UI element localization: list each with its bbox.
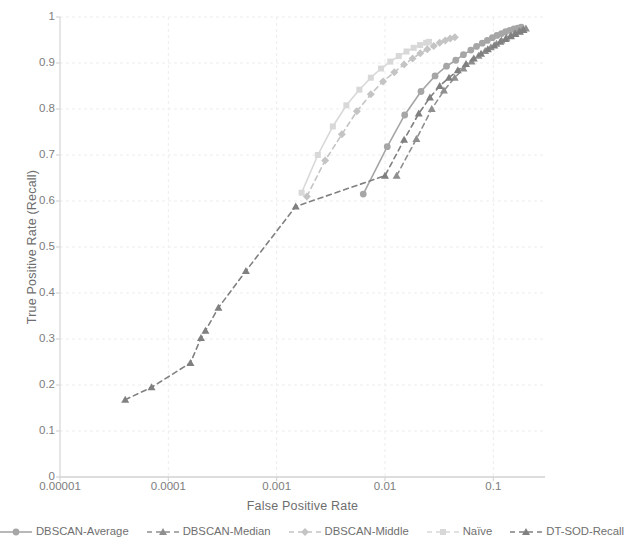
chart-legend: DBSCAN-AverageDBSCAN-MedianDBSCAN-Middle… [0, 521, 623, 543]
data-point-square [368, 75, 374, 81]
data-point-triangle [292, 203, 300, 210]
legend-item[interactable]: DBSCAN-Median [146, 526, 271, 538]
x-tick-label: 0.1 [485, 481, 501, 493]
legend-marker-square-marker [426, 526, 460, 538]
legend-marker-triangle-marker [509, 526, 543, 538]
data-point-circle [13, 529, 20, 536]
data-point-circle [460, 51, 467, 58]
data-point-square [387, 59, 393, 65]
legend-marker-triangle-marker [146, 526, 180, 538]
data-point-circle [418, 88, 425, 95]
data-point-square [426, 39, 432, 45]
x-tick-label: 0.00001 [39, 481, 81, 493]
data-point-square [396, 53, 402, 59]
x-axis-title: False Positive Rate [60, 499, 545, 513]
data-point-circle [473, 43, 480, 50]
series-dt-sod-recall [121, 26, 527, 403]
series-line [363, 27, 521, 194]
series-line [307, 37, 455, 196]
series-line [125, 30, 523, 400]
x-tick-label: 0.001 [262, 481, 291, 493]
legend-label: DBSCAN-Average [36, 526, 129, 537]
legend-marker-diamond-marker [288, 526, 322, 538]
data-point-diamond [423, 45, 431, 53]
data-point-triangle [381, 172, 389, 179]
data-point-triangle [201, 327, 209, 334]
data-point-circle [467, 47, 474, 54]
data-point-diamond [338, 130, 346, 138]
data-point-circle [443, 63, 450, 70]
legend-label: Naïve [463, 526, 493, 537]
data-point-circle [432, 72, 439, 79]
data-point-square [404, 49, 410, 55]
data-point-square [315, 152, 321, 158]
plot-area [0, 0, 623, 500]
data-point-square [299, 190, 305, 196]
data-point-triangle [186, 359, 194, 366]
data-point-diamond [416, 49, 424, 57]
data-point-triangle [412, 135, 420, 142]
data-point-square [411, 45, 417, 51]
data-point-circle [384, 143, 391, 150]
data-point-square [440, 529, 446, 535]
data-point-triangle [242, 267, 250, 274]
legend-item[interactable]: DBSCAN-Average [0, 526, 129, 538]
data-point-circle [360, 191, 367, 198]
data-point-square [343, 102, 349, 108]
legend-marker-circle-marker [0, 526, 33, 538]
data-point-triangle [148, 383, 156, 390]
data-point-triangle [214, 304, 222, 311]
data-point-circle [401, 112, 408, 119]
data-point-diamond [321, 157, 329, 165]
data-point-circle [452, 57, 459, 64]
x-tick-label: 0.01 [374, 481, 396, 493]
legend-label: DBSCAN-Median [183, 526, 271, 537]
data-point-diamond [301, 528, 309, 536]
data-point-triangle [393, 172, 401, 179]
x-tick-label: 0.0001 [151, 481, 186, 493]
data-point-square [378, 66, 384, 72]
legend-item[interactable]: DT-SOD-Recall [509, 526, 624, 538]
legend-label: DBSCAN-Middle [325, 526, 409, 537]
data-point-square [356, 87, 362, 93]
legend-item[interactable]: Naïve [426, 526, 493, 538]
series-dbscan-middle [303, 33, 459, 200]
data-point-square [330, 123, 336, 129]
data-point-triangle [400, 136, 408, 143]
legend-item[interactable]: DBSCAN-Middle [288, 526, 409, 538]
data-point-triangle [197, 334, 205, 341]
data-point-square [417, 42, 423, 48]
legend-label: DT-SOD-Recall [546, 526, 624, 537]
